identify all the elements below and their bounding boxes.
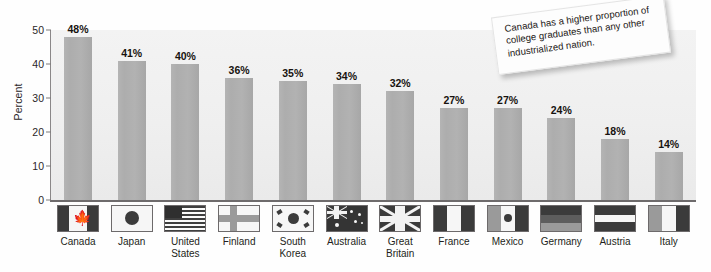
- x-axis-category: UnitedStates: [158, 205, 212, 259]
- bar: [279, 81, 307, 200]
- flag-japan-icon: [111, 205, 153, 232]
- y-axis-tick-label: 10: [18, 160, 44, 172]
- category-label-line2: Britain: [386, 248, 414, 259]
- x-axis-category-label: SouthKorea: [266, 236, 320, 259]
- bar: [547, 118, 575, 200]
- x-axis-category: SouthKorea: [266, 205, 320, 259]
- bar-value-label: 40%: [158, 50, 212, 62]
- flag-united-states-icon: [164, 205, 206, 232]
- bar-chart-figure: Percent 01020304050 48%41%40%36%35%34%32…: [0, 0, 711, 272]
- flag-south-korea-icon: [272, 205, 314, 232]
- category-label-line1: Great: [388, 236, 413, 247]
- bar: [225, 78, 253, 200]
- category-label-line1: Italy: [660, 236, 678, 247]
- flag-austria-icon: [594, 205, 636, 232]
- bar: [333, 84, 361, 200]
- y-axis-tick-label: 50: [18, 24, 44, 36]
- x-axis-category: Finland: [212, 205, 266, 248]
- bar: [494, 108, 522, 200]
- category-label-line1: Mexico: [492, 236, 524, 247]
- category-label-line1: South: [280, 236, 306, 247]
- cropped-source-line: [8, 266, 308, 272]
- y-axis-tick-label: 0: [18, 194, 44, 206]
- x-axis-line: [50, 200, 696, 202]
- x-axis-category-label: GreatBritain: [373, 236, 427, 259]
- x-axis-category: Mexico: [481, 205, 535, 248]
- x-axis-category-label: Canada: [51, 236, 105, 248]
- y-axis-tick-label: 20: [18, 126, 44, 138]
- x-axis-category-label: UnitedStates: [158, 236, 212, 259]
- x-axis-category: Austria: [588, 205, 642, 248]
- x-axis-category-label: France: [427, 236, 481, 248]
- bar-value-label: 32%: [373, 77, 427, 89]
- flag-great-britain-icon: [379, 205, 421, 232]
- callout-note-text: Canada has a higher proportion of colleg…: [504, 3, 658, 59]
- flag-mexico-icon: [487, 205, 529, 232]
- category-label-line1: Finland: [223, 236, 256, 247]
- x-axis-category-label: Australia: [320, 236, 374, 248]
- flag-canada-icon: 🍁: [57, 205, 99, 232]
- category-label-line1: Austria: [599, 236, 630, 247]
- x-axis-category-label: Mexico: [481, 236, 535, 248]
- x-axis-category: Germany: [534, 205, 588, 248]
- category-label-line1: Canada: [60, 236, 95, 247]
- bar-value-label: 48%: [51, 23, 105, 35]
- x-axis-category: Australia: [320, 205, 374, 248]
- flag-france-icon: [433, 205, 475, 232]
- category-label-line1: France: [438, 236, 469, 247]
- category-label-line2: Korea: [279, 248, 306, 259]
- bar-value-label: 27%: [481, 94, 535, 106]
- category-label-line1: Japan: [118, 236, 145, 247]
- bar: [386, 91, 414, 200]
- x-axis-category: France: [427, 205, 481, 248]
- bar: [601, 139, 629, 200]
- category-label-line1: Germany: [541, 236, 582, 247]
- bar-value-label: 35%: [266, 67, 320, 79]
- x-axis-category-label: Germany: [534, 236, 588, 248]
- bar: [118, 61, 146, 200]
- bar-value-label: 14%: [642, 138, 696, 150]
- category-label-line2: States: [171, 248, 199, 259]
- bar: [655, 152, 683, 200]
- x-axis-category: Japan: [105, 205, 159, 248]
- x-axis-category: 🍁Canada: [51, 205, 105, 248]
- x-axis-category-label: Japan: [105, 236, 159, 248]
- y-axis-tick-label: 30: [18, 92, 44, 104]
- x-axis-category: Italy: [642, 205, 696, 248]
- bar: [64, 37, 92, 200]
- flag-italy-icon: [648, 205, 690, 232]
- bar-value-label: 36%: [212, 64, 266, 76]
- x-axis-category: GreatBritain: [373, 205, 427, 259]
- x-axis-category-label: Italy: [642, 236, 696, 248]
- bar-value-label: 41%: [105, 47, 159, 59]
- flag-germany-icon: [540, 205, 582, 232]
- x-axis-category-group: 🍁CanadaJapanUnitedStatesFinlandSouthKore…: [51, 205, 696, 272]
- bar-value-label: 18%: [588, 125, 642, 137]
- flag-australia-icon: [326, 205, 368, 232]
- flag-finland-icon: [218, 205, 260, 232]
- category-label-line1: United: [171, 236, 200, 247]
- y-axis-tick-label: 40: [18, 58, 44, 70]
- bar: [440, 108, 468, 200]
- x-axis-category-label: Finland: [212, 236, 266, 248]
- bar-value-label: 27%: [427, 94, 481, 106]
- x-axis-category-label: Austria: [588, 236, 642, 248]
- bar: [171, 64, 199, 200]
- bar-value-label: 34%: [320, 70, 374, 82]
- category-label-line1: Australia: [327, 236, 366, 247]
- bar-value-label: 24%: [534, 104, 588, 116]
